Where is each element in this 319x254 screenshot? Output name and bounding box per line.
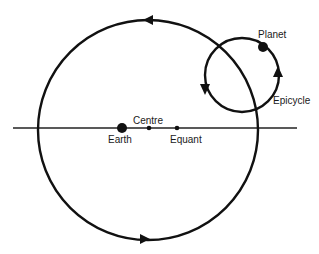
epicycle-arrow-up-icon (273, 66, 283, 77)
equant-label: Equant (170, 134, 202, 145)
planet-dot (258, 42, 268, 52)
epicycle-label: Epicycle (273, 95, 311, 106)
earth-dot (117, 123, 127, 133)
equant-dot (175, 126, 180, 131)
planet-label: Planet (258, 29, 287, 40)
deferent-arrow-bottom-right-icon (140, 234, 150, 244)
centre-dot (147, 126, 152, 131)
centre-label: Centre (133, 115, 163, 126)
earth-label: Earth (108, 134, 132, 145)
deferent-arrow-top-left-icon (143, 15, 153, 25)
ptolemaic-diagram: Planet Epicycle Earth Centre Equant (0, 0, 319, 254)
